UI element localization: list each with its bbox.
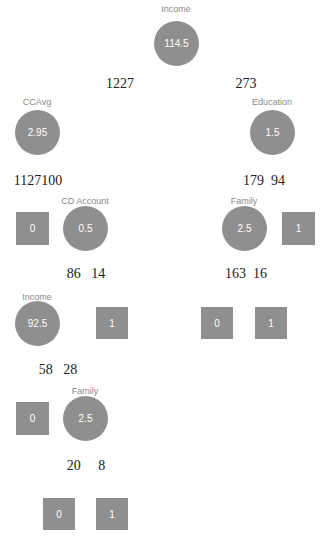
- leaf-node-1[interactable]: 1: [96, 307, 128, 339]
- leaf-node-0[interactable]: 0: [43, 498, 75, 530]
- root-feature-label: Income: [161, 4, 191, 14]
- leaf-value: 0: [30, 413, 36, 424]
- leaf-value: 0: [214, 318, 220, 329]
- leaf-value: 0: [30, 223, 36, 234]
- cd-account-threshold: 0.5: [79, 223, 93, 234]
- leaf-node-1[interactable]: 1: [96, 498, 128, 530]
- leaf-node-0[interactable]: 0: [201, 307, 233, 339]
- root-split-node[interactable]: 114.5: [154, 21, 199, 66]
- leaf-value: 1: [109, 509, 115, 520]
- cd-account-feature-label: CD Account: [61, 196, 109, 206]
- education-feature-label: Education: [252, 97, 292, 107]
- education-threshold: 1.5: [266, 127, 280, 138]
- cd-account-split-node[interactable]: 0.5: [63, 206, 108, 251]
- family-2-split-node[interactable]: 2.5: [63, 396, 108, 441]
- leaf-node-0[interactable]: 0: [16, 212, 49, 245]
- family-2-threshold: 2.5: [79, 413, 93, 424]
- income-2-split-node[interactable]: 92.5: [15, 301, 60, 346]
- root-threshold: 114.5: [164, 38, 188, 49]
- ccavg-feature-label: CCAvg: [23, 97, 51, 107]
- leaf-value: 1: [109, 318, 115, 329]
- leaf-node-1[interactable]: 1: [282, 212, 315, 245]
- income-2-split-counts: 58 28: [39, 362, 78, 378]
- leaf-node-1[interactable]: 1: [255, 307, 287, 339]
- income-2-threshold: 92.5: [28, 318, 47, 329]
- leaf-value: 0: [56, 509, 62, 520]
- root-right-count: 273: [236, 76, 257, 92]
- cd-account-split-counts: 86 14: [67, 266, 106, 282]
- family-feature-label: Family: [231, 196, 258, 206]
- leaf-value: 1: [296, 223, 302, 234]
- education-split-counts: 179 94: [243, 173, 285, 189]
- family-split-node[interactable]: 2.5: [222, 206, 267, 251]
- family-2-feature-label: Family: [72, 386, 99, 396]
- leaf-node-0[interactable]: 0: [16, 402, 49, 435]
- family-threshold: 2.5: [238, 223, 252, 234]
- family-2-split-counts: 20 8: [67, 458, 106, 474]
- family-split-counts: 163 16: [225, 266, 267, 282]
- root-left-count: 1227: [106, 76, 134, 92]
- education-split-node[interactable]: 1.5: [250, 110, 295, 155]
- leaf-value: 1: [268, 318, 274, 329]
- ccavg-split-counts: 1127100: [14, 173, 62, 189]
- ccavg-threshold: 2.95: [28, 127, 47, 138]
- ccavg-split-node[interactable]: 2.95: [15, 110, 60, 155]
